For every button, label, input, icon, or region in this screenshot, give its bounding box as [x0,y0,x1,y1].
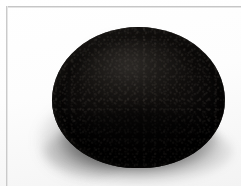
dark-round-object [52,27,225,168]
frame-left-rule-shadow [7,6,8,186]
image-viewport [0,0,241,186]
object-rim-light [52,27,225,168]
frame-top-rule-shadow [6,7,241,8]
